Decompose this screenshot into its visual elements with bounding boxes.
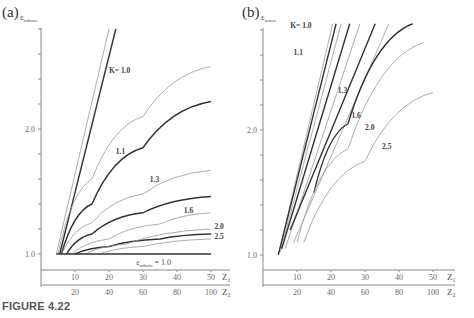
curve-label: K= 1.0 [290, 21, 312, 30]
x-tick-label-secondary: 20 [293, 288, 301, 297]
x-tick-label-secondary: 80 [395, 288, 403, 297]
chart-panel-b: 1.02.0εαmax102020403060408050100Z1Z2K= 1… [247, 12, 456, 298]
y-tick-label: 1.0 [25, 250, 35, 259]
data-line [280, 24, 341, 253]
figure-caption: FIGURE 4.22 [2, 300, 70, 312]
curve-label: 1.1 [116, 147, 126, 156]
data-line [297, 43, 423, 243]
x-tick-label-primary: 30 [361, 273, 369, 282]
x-tick-label-primary: 10 [293, 273, 301, 282]
curve-label: K= 1.0 [109, 66, 131, 75]
chart-panel-a: 1.02.0εαdmax102020403060408050100Z1Z2K= … [20, 12, 231, 298]
x-tick-label-primary: 10 [71, 273, 79, 282]
x-tick-label-secondary: 40 [105, 288, 113, 297]
data-line [99, 239, 211, 254]
y-tick-label: 2.0 [25, 125, 35, 134]
x-tick-label-secondary: 100 [205, 288, 217, 297]
y-axis-label: εαmax [261, 12, 277, 23]
y-tick-label: 1.0 [247, 251, 257, 260]
data-line [294, 24, 389, 243]
x-axis-label-secondary: Z2 [447, 287, 456, 298]
x-tick-label-primary: 40 [173, 273, 181, 282]
x-tick-label-secondary: 60 [139, 288, 147, 297]
data-line [75, 234, 211, 254]
x-tick-label-secondary: 80 [173, 288, 181, 297]
curve-label: 1.6 [184, 206, 194, 215]
x-tick-label-primary: 50 [207, 273, 215, 282]
x-axis-label-secondary: Z2 [222, 287, 231, 298]
x-tick-label-secondary: 100 [427, 288, 439, 297]
x-tick-label-primary: 20 [105, 273, 113, 282]
x-axis-label-primary: Z1 [447, 272, 456, 283]
y-tick-label: 2.0 [247, 126, 257, 135]
annotation: εαdmin = 1.0 [136, 258, 171, 268]
x-tick-label-primary: 40 [395, 273, 403, 282]
curve-label: 1.6 [351, 111, 361, 120]
curve-label: 1.1 [294, 48, 304, 57]
y-axis-label: εαdmax [20, 12, 38, 23]
curve-label: 2.0 [365, 123, 375, 132]
data-line [61, 102, 211, 255]
data-line [56, 29, 109, 254]
data-line [314, 24, 413, 193]
curve-label: 2.0 [214, 222, 224, 231]
x-tick-label-primary: 20 [327, 273, 335, 282]
x-tick-label-secondary: 20 [71, 288, 79, 297]
curve-label: 2.5 [382, 142, 392, 151]
x-axis-label-primary: Z1 [222, 272, 231, 283]
curve-label: 2.5 [214, 232, 224, 241]
data-line [304, 93, 433, 243]
x-tick-label-primary: 30 [139, 273, 147, 282]
data-line [58, 67, 211, 255]
curve-label: 1.3 [150, 175, 160, 184]
data-line [85, 229, 211, 254]
figure-canvas: 1.02.0εαdmax102020403060408050100Z1Z2K= … [0, 0, 474, 318]
curve-label: 1.3 [338, 86, 348, 95]
data-line [60, 29, 116, 254]
x-tick-label-primary: 50 [429, 273, 437, 282]
x-tick-label-secondary: 40 [327, 288, 335, 297]
x-tick-label-secondary: 60 [361, 288, 369, 297]
